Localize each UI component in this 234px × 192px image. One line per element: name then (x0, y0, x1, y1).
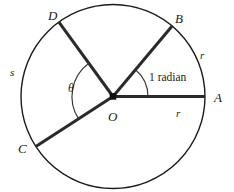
label-arc-s: s (10, 67, 14, 78)
label-point-d: D (48, 9, 57, 22)
label-point-o: O (108, 110, 117, 123)
label-point-a: A (214, 91, 222, 104)
label-point-c: C (18, 142, 27, 155)
label-angle-theta: θ (68, 82, 74, 94)
circle-radian-diagram: D B A C O r r s θ 1 radian (0, 0, 234, 192)
label-point-b: B (175, 12, 183, 25)
label-angle-one-radian: 1 radian (149, 72, 186, 84)
radius-line-oc (36, 97, 113, 147)
angle-arc-one-radian (136, 70, 149, 97)
diagram-canvas (0, 0, 234, 192)
angle-arc-theta (72, 63, 89, 119)
radius-line-ob (113, 26, 172, 96)
label-radius-ob: r (200, 50, 204, 61)
label-radius-oa: r (176, 108, 180, 119)
center-point-marker (110, 93, 117, 100)
